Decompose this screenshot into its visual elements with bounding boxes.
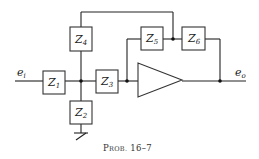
junction-node-output [218, 79, 222, 83]
impedance-z5: Z5 [141, 27, 163, 50]
impedance-z6: Z6 [182, 27, 205, 50]
junction-node-a [79, 79, 83, 83]
impedance-z2: Z2 [70, 101, 92, 124]
impedance-z1: Z1 [43, 71, 65, 94]
opamp-triangle [138, 63, 182, 97]
input-label: ei [17, 66, 26, 80]
output-label: eo [235, 66, 246, 80]
circuit-diagram: Z1 Z2 Z3 Z4 Z5 Z6 ei eo PROB. 16–7 [0, 0, 259, 159]
impedance-z4: Z4 [70, 27, 92, 51]
figure-caption: PROB. 16–7 [103, 143, 152, 153]
ground-icon [74, 133, 88, 140]
junction-node-c [171, 37, 175, 41]
impedance-z3: Z3 [96, 70, 118, 93]
junction-node-b [125, 79, 129, 83]
